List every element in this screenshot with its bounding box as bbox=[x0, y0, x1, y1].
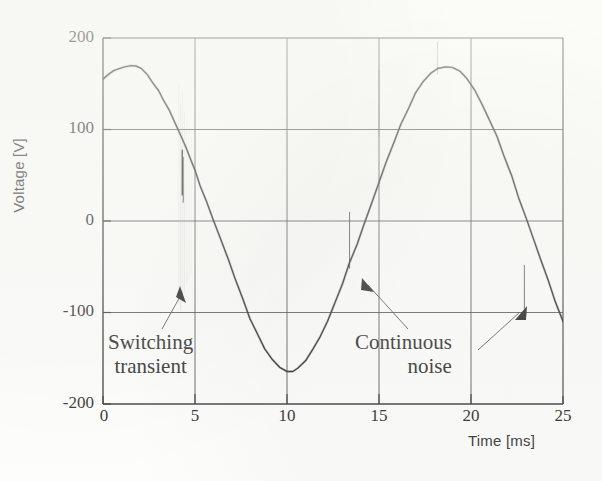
switching-transient-spikes bbox=[179, 84, 192, 311]
x-axis-title: Time [ms] bbox=[468, 432, 535, 449]
x-tick-label-25: 25 bbox=[550, 406, 576, 426]
horizontal-gridlines bbox=[103, 130, 563, 313]
x-tick-label-5: 5 bbox=[186, 406, 204, 426]
continuous-noise-spikes bbox=[350, 42, 525, 309]
y-tick-label-200: 200 bbox=[38, 27, 94, 47]
x-tick-label-15: 15 bbox=[366, 406, 392, 426]
y-axis-title: Voltage [V] bbox=[10, 138, 27, 213]
annotation-noise-line2: noise bbox=[355, 354, 452, 378]
annotation-noise-line1: Continuous bbox=[355, 330, 452, 354]
x-axis-ticks bbox=[103, 394, 563, 404]
y-tick-label-neg200: -200 bbox=[34, 393, 94, 413]
annotation-continuous-noise: Continuous noise bbox=[355, 330, 452, 379]
y-tick-label-100: 100 bbox=[38, 118, 94, 138]
y-tick-label-0: 0 bbox=[38, 210, 94, 230]
x-tick-label-0: 0 bbox=[95, 406, 113, 426]
annotation-switching-line1: Switching bbox=[108, 330, 193, 354]
x-tick-label-20: 20 bbox=[458, 406, 484, 426]
annotation-switching-transient: Switching transient bbox=[108, 330, 193, 379]
annotation-leader-lines bbox=[162, 278, 527, 350]
x-tick-label-10: 10 bbox=[274, 406, 300, 426]
y-tick-label-neg100: -100 bbox=[34, 301, 94, 321]
waveform-figure: Voltage [V] Time [ms] 200 100 0 -100 -20… bbox=[0, 0, 602, 481]
voltage-waveform-trace bbox=[103, 66, 563, 372]
voltage-waveform-trace-shadow bbox=[103, 66, 563, 372]
annotation-switching-line2: transient bbox=[108, 354, 193, 378]
